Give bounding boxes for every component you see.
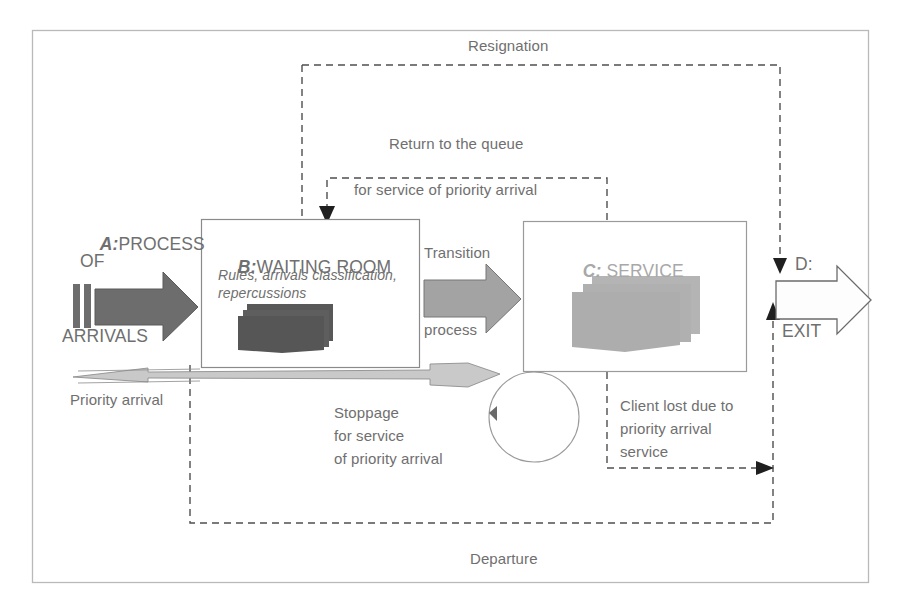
transition-label-line1: Transition (424, 243, 490, 262)
stoppage-label-line1: Stoppage (334, 403, 399, 422)
stage-c-tag: C: (583, 261, 602, 281)
transition-label-line2: process (424, 320, 477, 339)
client-lost-label-line3: service (620, 442, 668, 461)
stage-c-title: C: SERVICE (563, 238, 684, 304)
stoppage-label-line3: of priority arrival (334, 449, 443, 468)
client-lost-label-line2: priority arrival (620, 419, 712, 438)
stage-b-subtitle: Rules, arrivals classification, repercus… (218, 266, 418, 302)
stage-d-tag: D: (795, 253, 813, 275)
stage-d-title: EXIT (782, 320, 821, 342)
stage-a-process-label: PROCESS (119, 234, 205, 254)
stage-c-title-text: SERVICE (607, 261, 684, 281)
stage-a-title-line3: ARRIVALS (62, 325, 148, 347)
document-stack-icon-waiting (238, 304, 333, 353)
diagram-vector-layer (0, 0, 901, 616)
resignation-label: Resignation (468, 36, 548, 55)
priority-arrival-label: Priority arrival (70, 390, 163, 409)
departure-label: Departure (470, 549, 538, 568)
client-lost-label-line1: Client lost due to (620, 396, 734, 415)
circular-loop-icon (489, 372, 579, 462)
stage-a-title-line2: OF (80, 250, 105, 272)
return-to-queue-label-line2: for service of priority arrival (354, 180, 537, 199)
return-to-queue-label-line1: Return to the queue (389, 134, 524, 153)
diagram-canvas: A:PROCESS OF ARRIVALS B:WAITING ROOM Rul… (0, 0, 901, 616)
stoppage-label-line2: for service (334, 426, 404, 445)
queue-bars-icon (73, 284, 80, 328)
